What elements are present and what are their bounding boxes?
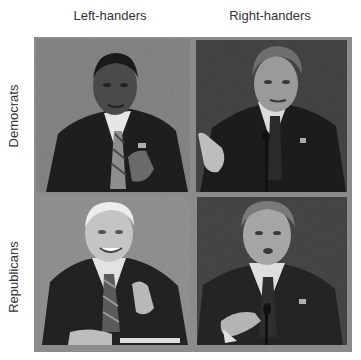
column-label-right-handers: Right-handers <box>195 8 345 24</box>
portrait-image <box>36 39 190 192</box>
photo-republican-right-hander <box>197 197 347 345</box>
row-label-democrats: Democrats <box>6 41 22 191</box>
photo-grid-frame <box>34 37 352 352</box>
portrait-image <box>40 196 190 345</box>
row-label-republicans: Republicans <box>6 202 22 352</box>
column-label-left-handers: Left-handers <box>35 8 185 24</box>
portrait-image <box>197 197 347 345</box>
portrait-image <box>196 40 347 192</box>
photo-democrat-right-hander <box>196 40 347 192</box>
photo-republican-left-hander <box>40 196 190 345</box>
photo-democrat-left-hander <box>36 39 190 192</box>
